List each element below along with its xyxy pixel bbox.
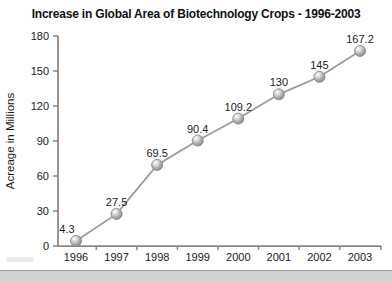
data-point-label: 145 (310, 59, 328, 71)
y-tick-label: 120 (31, 100, 49, 112)
x-axis-year-label: 1998 (145, 251, 169, 263)
y-tick-label: 90 (37, 135, 49, 147)
y-tick-label: 60 (37, 170, 49, 182)
line-chart: Acreage in Millions 03060901201501801996… (0, 0, 392, 270)
data-point-label: 109.2 (225, 101, 253, 113)
data-point-label: 130 (270, 76, 288, 88)
x-axis-year-label: 1996 (64, 251, 88, 263)
y-tick-label: 0 (43, 240, 49, 252)
y-tick-label: 180 (31, 30, 49, 42)
scan-artifact (6, 257, 34, 262)
x-axis-year-label: 2001 (267, 251, 291, 263)
data-point-label: 4.3 (59, 223, 74, 235)
x-axis-year-label: 1997 (104, 251, 128, 263)
data-point (71, 235, 82, 246)
x-axis-year-label: 2002 (307, 251, 331, 263)
data-point (192, 135, 203, 146)
data-point-label: 69.5 (146, 147, 167, 159)
data-point (273, 89, 284, 100)
data-point (111, 208, 122, 219)
data-point (355, 45, 366, 56)
data-point-label: 167.2 (346, 33, 374, 45)
x-axis-year-label: 2003 (348, 251, 372, 263)
data-point (314, 71, 325, 82)
data-point (152, 159, 163, 170)
footer-band (0, 270, 392, 282)
x-axis-year-label: 1999 (185, 251, 209, 263)
y-tick-label: 30 (37, 205, 49, 217)
data-point-label: 27.5 (106, 196, 127, 208)
data-point (233, 113, 244, 124)
y-axis-title: Acreage in Millions (4, 92, 16, 189)
plot-area: 0306090120150180199619971998199920002001… (31, 30, 381, 263)
y-tick-label: 150 (31, 65, 49, 77)
x-axis-year-label: 2000 (226, 251, 250, 263)
data-point-label: 90.4 (187, 123, 208, 135)
